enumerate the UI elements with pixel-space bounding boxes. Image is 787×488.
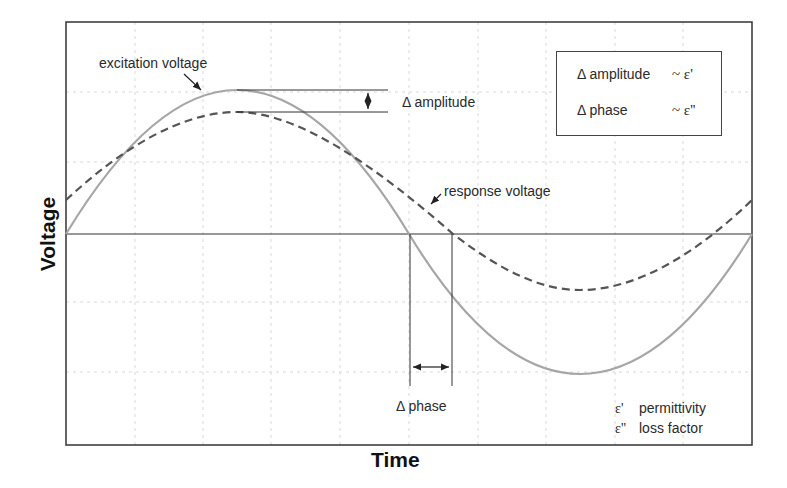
delta-amplitude-label: Δ amplitude — [402, 94, 475, 110]
response-curve — [66, 112, 752, 290]
legend-box: Δ amplitude ~ ε' Δ phase ~ ε'' — [556, 51, 722, 136]
delta-phase-label: Δ phase — [396, 398, 447, 414]
legend-phase-symbol: ~ ε'' — [672, 102, 696, 119]
note-permittivity: ε'permittivity — [615, 400, 706, 417]
loss-factor-text: loss factor — [639, 420, 703, 436]
y-axis-title: Voltage — [36, 192, 60, 276]
legend-phase-label: Δ phase — [577, 102, 628, 118]
response-pointer — [431, 194, 441, 204]
x-axis-title: Time — [371, 448, 420, 472]
legend-row-phase: Δ phase ~ ε'' — [577, 102, 628, 118]
legend-row-amplitude: Δ amplitude ~ ε' — [577, 66, 650, 82]
epsilon-double-prime-symbol: ε'' — [615, 421, 639, 437]
epsilon-prime-symbol: ε' — [615, 401, 639, 417]
legend-amplitude-symbol: ~ ε' — [672, 66, 693, 83]
excitation-label: excitation voltage — [99, 55, 207, 71]
permittivity-text: permittivity — [639, 400, 706, 416]
note-loss-factor: ε''loss factor — [615, 420, 703, 437]
legend-amplitude-label: Δ amplitude — [577, 66, 650, 82]
response-label: response voltage — [444, 183, 551, 199]
excitation-pointer — [184, 74, 201, 90]
